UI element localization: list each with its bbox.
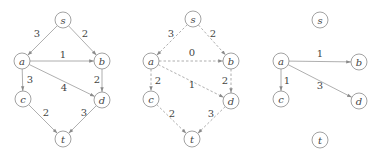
edge-weight-label: 3 bbox=[27, 74, 33, 85]
graph-right: 113sabcdt bbox=[273, 12, 367, 148]
node-label: c bbox=[20, 94, 26, 105]
edge-weight-label: 3 bbox=[168, 28, 174, 39]
edge-weight-label: 2 bbox=[210, 28, 216, 39]
edge-weight-label: 3 bbox=[208, 108, 214, 119]
graph-diagram: 32143223sabcdt32012223sabcdt113sabcdt bbox=[0, 0, 383, 161]
edge-weight-label: 3 bbox=[317, 80, 323, 91]
edge-a-c bbox=[22, 69, 23, 91]
edge-weight-label: 2 bbox=[155, 75, 161, 86]
node-label: a bbox=[148, 56, 154, 67]
node-label: b bbox=[356, 57, 362, 68]
node-label: b bbox=[99, 56, 105, 67]
edge-weight-label: 4 bbox=[61, 82, 67, 93]
edge-weight-label: 2 bbox=[169, 108, 175, 119]
edge-weight-label: 3 bbox=[81, 107, 87, 118]
node-label: b bbox=[228, 56, 234, 67]
graph-middle: 32012223sabcdt bbox=[143, 11, 239, 147]
edge-weight-label: 1 bbox=[284, 75, 290, 86]
node-label: c bbox=[148, 94, 154, 105]
edge-weight-label: 2 bbox=[94, 74, 100, 85]
node-label: d bbox=[228, 96, 234, 107]
edge-s-a bbox=[28, 26, 58, 56]
edge-weight-label: 3 bbox=[34, 28, 40, 39]
node-label: c bbox=[278, 94, 284, 105]
node-label: s bbox=[190, 14, 195, 25]
node-label: d bbox=[99, 95, 105, 106]
edge-weight-label: 2 bbox=[222, 75, 228, 86]
edge-a-b bbox=[289, 61, 351, 62]
node-label: s bbox=[317, 15, 322, 26]
edge-weight-label: 1 bbox=[317, 48, 323, 59]
node-label: d bbox=[356, 96, 362, 107]
node-label: a bbox=[278, 56, 284, 67]
node-label: a bbox=[19, 56, 25, 67]
graph-original: 32143223sabcdt bbox=[14, 12, 110, 147]
edge-weight-label: 0 bbox=[189, 47, 195, 58]
node-label: s bbox=[60, 15, 65, 26]
edge-weight-label: 1 bbox=[60, 49, 66, 60]
edge-weight-label: 2 bbox=[43, 107, 49, 118]
edge-weight-label: 1 bbox=[189, 79, 195, 90]
edge-weight-label: 2 bbox=[82, 28, 88, 39]
